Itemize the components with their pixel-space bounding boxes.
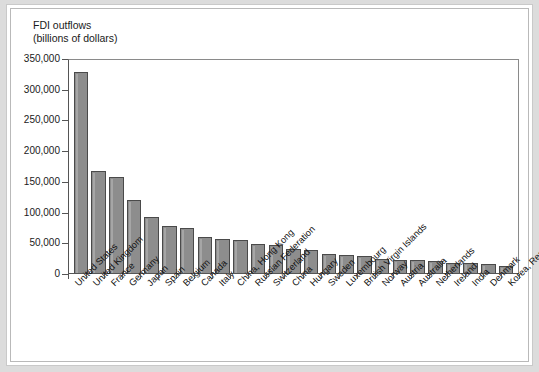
x-axis-tick bbox=[248, 274, 249, 279]
x-axis-tick bbox=[375, 274, 376, 279]
x-axis-labels: United StatesUnited KingdomFranceGermany… bbox=[11, 9, 530, 363]
y-axis-tick-label: 50,000 bbox=[12, 237, 60, 248]
x-axis-tick bbox=[122, 274, 123, 279]
page-background: FDI outflows (billions of dollars) Unite… bbox=[0, 0, 539, 372]
x-axis-tick bbox=[501, 274, 502, 279]
y-axis-tick-label: 100,000 bbox=[12, 207, 60, 218]
x-axis-tick bbox=[68, 274, 69, 279]
x-axis-tick bbox=[465, 274, 466, 279]
x-axis-tick bbox=[176, 274, 177, 279]
x-axis-tick bbox=[266, 274, 267, 279]
x-axis-tick bbox=[483, 274, 484, 279]
figure-panel: FDI outflows (billions of dollars) Unite… bbox=[10, 8, 529, 362]
x-axis-tick bbox=[212, 274, 213, 279]
x-axis-tick bbox=[230, 274, 231, 279]
y-axis-tick-label: 300,000 bbox=[12, 84, 60, 95]
y-axis-tick-label: 200,000 bbox=[12, 145, 60, 156]
x-axis-tick bbox=[357, 274, 358, 279]
x-axis-tick bbox=[429, 274, 430, 279]
x-axis-tick bbox=[303, 274, 304, 279]
y-axis-tick bbox=[62, 151, 68, 152]
y-axis-tick-label: 0 bbox=[12, 268, 60, 279]
y-axis-tick bbox=[62, 59, 68, 60]
x-axis-tick bbox=[284, 274, 285, 279]
x-axis-tick bbox=[447, 274, 448, 279]
x-axis-tick bbox=[140, 274, 141, 279]
y-axis-tick-label: 350,000 bbox=[12, 53, 60, 64]
x-axis-tick bbox=[104, 274, 105, 279]
y-axis-tick bbox=[62, 213, 68, 214]
y-axis-tick-label: 250,000 bbox=[12, 114, 60, 125]
x-axis-tick bbox=[158, 274, 159, 279]
x-axis-tick bbox=[519, 274, 520, 279]
bar-chart: FDI outflows (billions of dollars) Unite… bbox=[11, 9, 530, 363]
y-axis-tick bbox=[62, 120, 68, 121]
x-axis-tick bbox=[339, 274, 340, 279]
x-axis-tick bbox=[86, 274, 87, 279]
y-axis-tick-label: 150,000 bbox=[12, 176, 60, 187]
y-axis-tick bbox=[62, 182, 68, 183]
x-axis-tick bbox=[321, 274, 322, 279]
x-axis-tick bbox=[411, 274, 412, 279]
x-axis-tick bbox=[393, 274, 394, 279]
y-axis-tick bbox=[62, 243, 68, 244]
x-axis-tick bbox=[194, 274, 195, 279]
y-axis-tick bbox=[62, 90, 68, 91]
